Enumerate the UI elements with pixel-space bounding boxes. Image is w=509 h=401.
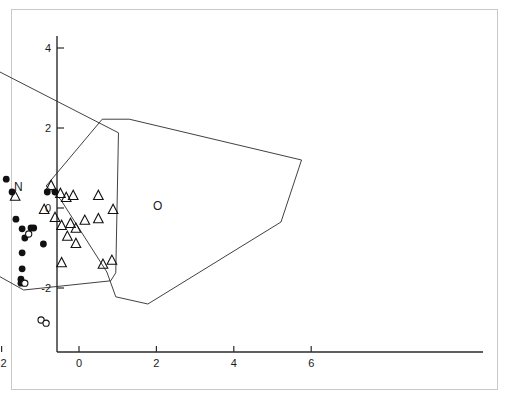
y-tick-label: 2 <box>45 122 51 134</box>
series-triangles <box>10 180 118 268</box>
point-open-triangle <box>71 238 81 247</box>
hull-n <box>0 54 118 290</box>
axes-layer: -4-20246420-2 <box>0 36 483 369</box>
point-open-triangle <box>50 212 60 221</box>
group-label-o: O <box>153 199 162 213</box>
group-label-n: N <box>14 180 23 194</box>
x-tick-label: 2 <box>153 357 159 369</box>
point-open-triangle <box>94 214 104 223</box>
point-open-triangle <box>108 204 118 213</box>
group-labels-layer: NO <box>14 180 162 213</box>
scatter-plot: -4-20246420-2 NO <box>0 0 509 401</box>
x-tick-label: -2 <box>0 357 6 369</box>
point-filled-circle <box>40 241 47 248</box>
point-open-circle <box>22 280 28 286</box>
point-filled-circle <box>19 225 26 232</box>
point-filled-circle <box>19 249 26 256</box>
x-tick-label: 0 <box>76 357 82 369</box>
y-tick-label: -2 <box>41 282 51 294</box>
figure-container: -4-20246420-2 NO <box>0 0 509 401</box>
point-filled-circle <box>30 225 37 232</box>
point-filled-circle <box>19 265 26 272</box>
point-open-triangle <box>94 190 104 199</box>
point-open-triangle <box>57 258 67 267</box>
point-open-triangle <box>107 255 117 264</box>
point-open-circle <box>26 231 32 237</box>
point-open-circle <box>43 320 49 326</box>
x-tick-label: 4 <box>231 357 237 369</box>
point-filled-circle <box>13 216 20 223</box>
hull-o <box>46 119 301 304</box>
point-filled-circle <box>3 176 10 183</box>
y-tick-label: 4 <box>45 42 51 54</box>
convex-hulls-layer <box>0 54 302 304</box>
x-tick-label: 6 <box>308 357 314 369</box>
point-open-triangle <box>80 215 90 224</box>
